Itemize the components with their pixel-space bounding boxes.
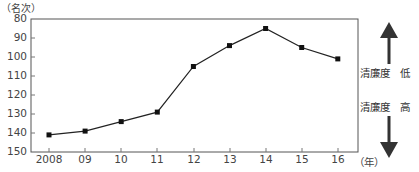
- x-tick: 16: [331, 153, 344, 165]
- x-tick-marks: [49, 148, 338, 152]
- x-tick: 2008: [36, 153, 63, 165]
- data-point-marker: [263, 26, 268, 31]
- data-point-marker: [83, 129, 88, 134]
- x-tick: 14: [259, 153, 272, 165]
- arrow-up-icon: [380, 22, 398, 64]
- x-tick: 09: [78, 153, 91, 165]
- series-line: [47, 26, 341, 137]
- data-point-marker: [155, 110, 160, 115]
- line-chart: [0, 0, 419, 172]
- annotation-high: 清廉度 高: [360, 99, 410, 114]
- annotation-low: 清廉度 低: [360, 65, 410, 80]
- y-tick-marks: [31, 38, 35, 133]
- x-tick: 11: [150, 153, 163, 165]
- x-tick: 15: [295, 153, 308, 165]
- data-point-marker: [119, 119, 124, 124]
- data-point-marker: [335, 56, 340, 61]
- data-point-marker: [47, 132, 52, 137]
- data-point-marker: [191, 64, 196, 69]
- x-tick: 12: [187, 153, 200, 165]
- data-point-marker: [227, 43, 232, 48]
- x-tick: 13: [223, 153, 236, 165]
- x-axis-unit: （年）: [354, 154, 384, 169]
- x-tick: 10: [114, 153, 127, 165]
- data-point-marker: [299, 45, 304, 50]
- arrow-down-icon: [380, 116, 398, 158]
